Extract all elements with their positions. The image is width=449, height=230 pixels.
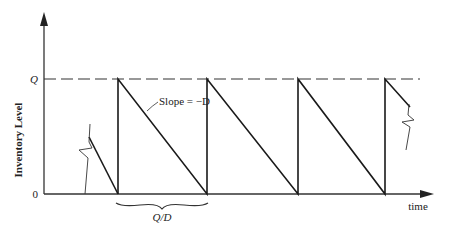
slope-label: Slope = −D [159, 95, 210, 107]
y-tick-q: Q [30, 73, 38, 85]
cycle-label: Q/D [153, 211, 172, 223]
y-axis-arrow-icon [40, 12, 48, 26]
y-tick-zero: 0 [33, 188, 39, 200]
y-axis-label: Inventory Level [12, 103, 24, 178]
x-axis-label: time [408, 200, 428, 212]
partial-cycle-left [89, 137, 118, 194]
slope-pointer [147, 102, 158, 111]
inventory-diagram: Inventory Level Q 0 Slope = −D Q/D time [0, 0, 449, 230]
break-mark-right [402, 104, 414, 150]
break-mark-left [79, 124, 92, 194]
cycle-brace [116, 203, 208, 209]
x-axis-arrow-icon [420, 190, 434, 198]
